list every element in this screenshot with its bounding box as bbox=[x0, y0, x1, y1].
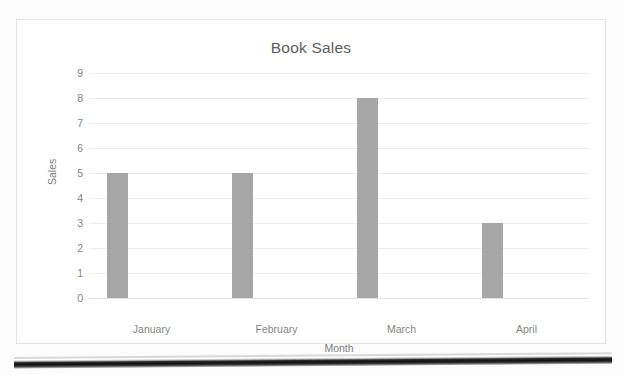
gridline bbox=[89, 298, 589, 299]
x-axis-tick: April bbox=[464, 323, 589, 335]
y-axis-tick: 4 bbox=[57, 192, 83, 204]
chart-title: Book Sales bbox=[17, 39, 605, 57]
y-axis-tick: 6 bbox=[57, 142, 83, 154]
x-axis-tick: February bbox=[214, 323, 339, 335]
bar-slot bbox=[464, 73, 589, 298]
x-axis-tick: January bbox=[89, 323, 214, 335]
bar[interactable] bbox=[482, 223, 503, 298]
plot-area bbox=[89, 73, 589, 298]
y-axis-tick: 9 bbox=[57, 67, 83, 79]
bar[interactable] bbox=[107, 173, 128, 298]
y-axis-tick: 1 bbox=[57, 267, 83, 279]
bar[interactable] bbox=[357, 98, 378, 298]
x-axis-tick-labels: JanuaryFebruaryMarchApril bbox=[89, 323, 589, 339]
scanned-page: Book Sales Sales 9876543210 JanuaryFebru… bbox=[0, 0, 624, 375]
y-axis-tick: 8 bbox=[57, 92, 83, 104]
chart-container: Book Sales Sales 9876543210 JanuaryFebru… bbox=[16, 19, 606, 344]
y-axis-tick: 3 bbox=[57, 217, 83, 229]
bar[interactable] bbox=[232, 173, 253, 298]
y-axis-tick: 5 bbox=[57, 167, 83, 179]
y-axis-tick: 7 bbox=[57, 117, 83, 129]
bar-slot bbox=[339, 73, 464, 298]
y-axis-tick-labels: 9876543210 bbox=[55, 73, 83, 298]
y-axis-tick: 0 bbox=[57, 292, 83, 304]
y-axis-tick: 2 bbox=[57, 242, 83, 254]
bar-slot bbox=[89, 73, 214, 298]
x-axis-tick: March bbox=[339, 323, 464, 335]
bar-slot bbox=[214, 73, 339, 298]
